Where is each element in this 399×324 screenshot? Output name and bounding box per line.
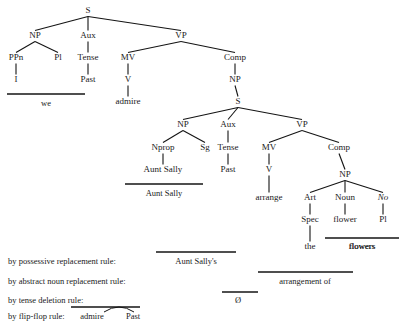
tree-node-np3: NP [177,119,189,129]
tree-node-i: I [15,74,18,84]
tree-node-s1: S [85,5,90,15]
tree-node-vp1: VP [175,30,187,40]
tree-branch-s1-np1 [35,17,88,31]
tree-node-np1: NP [29,30,41,40]
tree-branch-vp1-mv1 [128,42,181,53]
tree-node-comp1: Comp [224,52,247,62]
tree-node-flowers: flowers [349,241,376,251]
tree-branch-np3-nprop [163,131,183,143]
tree-branch-vp2-comp2 [302,131,339,143]
tree-node-np4: NP [339,169,351,179]
tree-node-comp2: Comp [328,142,351,152]
tree-branch-np2-s2 [235,86,238,97]
tree-node-nprop: Nprop [152,142,175,152]
flip-flop-word-two: Past [126,311,141,321]
tree-branch-comp2-np4 [339,154,345,170]
tree-node-admire: admire [116,96,141,106]
tree-edges [16,17,383,242]
tree-node-art: Art [304,192,316,202]
tree-branch-s1-vp1 [88,17,181,31]
tree-node-s2: S [235,96,240,106]
rule-value-tense-deletion: Ø [235,295,241,305]
tree-node-mv1: MV [121,52,136,62]
syntax-tree-figure: weAunt Sallyflowers SNPAuxVPPPnPlTenseMV… [0,0,399,324]
tree-branch-np3-sg [183,131,205,143]
tree-branch-np4-no [345,181,383,193]
rule-label-flip-flop: by flip-flop rule: [8,311,65,321]
tree-node-spec: Spec [301,214,319,224]
tree-node-v1: V [125,74,132,84]
rule-label-abstract-noun: by abstract noun replacement rule: [8,276,126,286]
tree-node-noun: Noun [335,192,355,202]
tree-node-sg: Sg [200,142,210,152]
tree-node-tense2: Tense [218,142,239,152]
tree-node-pl2: Pl [379,214,387,224]
tree-branch-np1-ppn [16,42,35,53]
surface-word-we: we [41,98,51,108]
tree-node-ppn: PPn [9,52,24,62]
tree-node-np2: NP [229,74,241,84]
tree-node-aux2: Aux [220,119,236,129]
rule-label-possessive: by possessive replacement rule: [8,256,116,266]
tree-node-past1: Past [80,74,96,84]
tree-node-past2: Past [220,164,236,174]
tree-branch-s2-vp2 [238,108,302,120]
tree-branch-vp1-comp1 [181,42,235,53]
rule-value-possessive: Aunt Sally's [175,256,216,266]
tree-nodes: SNPAuxVPPPnPlTenseMVCompIPastVNPadmireSN… [9,5,389,251]
flip-flop-word-one: admire [80,311,104,321]
tree-node-flower: flower [333,214,357,224]
tree-node-pl1: Pl [54,52,62,62]
tree-node-vp2: VP [296,119,308,129]
rule-label-tense-deletion: by tense deletion rule: [8,295,83,305]
tree-branch-np1-pl1 [35,42,58,53]
tree-node-arrange: arrange [256,192,283,202]
tree-node-no: No [377,192,389,202]
surface-word-aunt-sally: Aunt Sally [146,188,183,198]
tree-node-mv2: MV [262,142,277,152]
tree-node-tense1: Tense [78,52,99,62]
tree-node-v2: V [266,164,273,174]
tree-node-auntsally: Aunt Sally [144,164,183,174]
tree-branch-vp2-mv2 [269,131,302,143]
transformation-rules: by possessive replacement rule:Aunt Sall… [8,252,353,321]
tree-canvas: weAunt Sallyflowers SNPAuxVPPPnPlTenseMV… [0,0,399,324]
tree-node-the: the [305,241,316,251]
tree-node-aux1: Aux [80,30,96,40]
rule-value-abstract-noun: arrangement of [279,276,331,286]
tree-branch-np4-art [310,181,345,193]
